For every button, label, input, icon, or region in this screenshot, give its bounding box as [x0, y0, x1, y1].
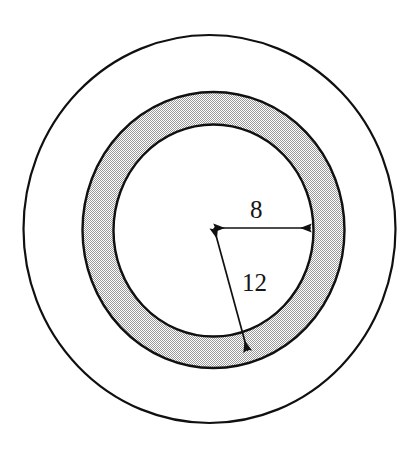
width-dimension-label: 8	[250, 197, 263, 222]
radius-dimension-label: 12	[242, 270, 267, 295]
inner-circle	[114, 125, 314, 337]
figure-container: 8 12	[0, 0, 418, 450]
faint-caption-artifact	[132, 436, 284, 446]
annulus-diagram-svg	[0, 0, 418, 450]
